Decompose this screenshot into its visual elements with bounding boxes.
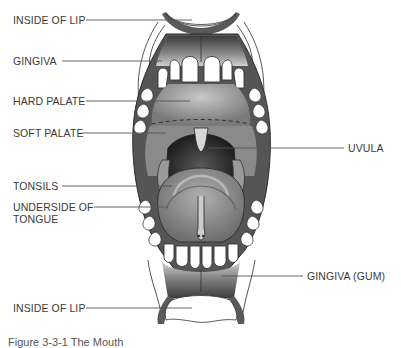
label-underside-of-tongue-line2: TONGUE [13,213,58,225]
label-hard-palate: HARD PALATE [13,95,85,107]
label-gingiva-gum: GINGIVA (GUM) [307,270,385,282]
label-inside-of-lip-bottom: INSIDE OF LIP [13,302,85,314]
label-inside-of-lip-top: INSIDE OF LIP [13,14,85,26]
label-uvula: UVULA [348,142,384,154]
lower-lip [157,296,244,325]
frenulum [197,196,205,240]
label-underside-of-tongue-line1: UNDERSIDE OF [13,201,94,213]
label-gingiva: GINGIVA [13,55,57,67]
upper-lip [162,12,240,35]
upper-gum [156,36,248,66]
label-tonsils: TONSILS [13,180,58,192]
label-soft-palate: SOFT PALATE [13,127,84,139]
figure-caption: Figure 3-3-1 The Mouth [8,336,123,348]
